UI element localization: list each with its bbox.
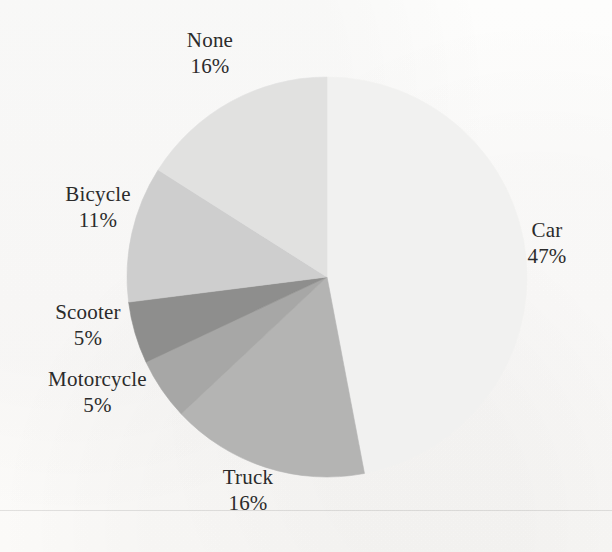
pie-label-bicycle-name: Bicycle	[28, 182, 168, 208]
pie-label-scooter-value: 5%	[18, 326, 158, 352]
pie-label-motorcycle-name: Motorcycle	[10, 367, 185, 393]
pie-label-car-name: Car	[492, 218, 602, 244]
pie-label-bicycle-value: 11%	[28, 208, 168, 234]
pie-label-car-value: 47%	[492, 244, 602, 270]
pie-label-none-name: None	[130, 28, 290, 54]
pie-slice-car	[327, 77, 527, 473]
pie-slice-group	[127, 77, 527, 477]
pie-chart-figure: None 16% Car 47% Bicycle 11% Scooter 5% …	[0, 0, 612, 552]
pie-label-scooter-name: Scooter	[18, 300, 158, 326]
pie-label-none-value: 16%	[130, 54, 290, 80]
pie-label-car: Car 47%	[492, 218, 602, 269]
pie-label-motorcycle-value: 5%	[10, 393, 185, 419]
pie-label-truck: Truck 16%	[178, 465, 318, 516]
pie-label-bicycle: Bicycle 11%	[28, 182, 168, 233]
pie-label-motorcycle: Motorcycle 5%	[10, 367, 185, 418]
pie-label-truck-name: Truck	[178, 465, 318, 491]
pie-label-truck-value: 16%	[178, 491, 318, 517]
pie-label-none: None 16%	[130, 28, 290, 79]
pie-label-scooter: Scooter 5%	[18, 300, 158, 351]
